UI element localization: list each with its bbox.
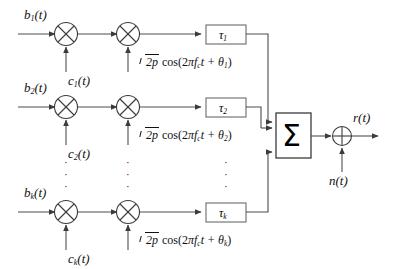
label-b2: b2(t) xyxy=(24,81,47,96)
ellipsis-column-3: ··· xyxy=(224,156,228,192)
label-c2: c2(t) xyxy=(68,147,90,162)
label-tau-2: τ2 xyxy=(219,101,227,116)
label-rt: r(t) xyxy=(353,111,370,124)
label-c1: c1(t) xyxy=(68,74,90,89)
label-carrier-2: 2p cos(2πfct + θ2) xyxy=(140,129,232,143)
label-ck: ck(t) xyxy=(68,252,90,267)
label-b1: b1(t) xyxy=(24,8,47,23)
bus-k-to-sum xyxy=(246,152,268,212)
bus-2-to-sum xyxy=(246,107,261,128)
ellipsis-column-2: ··· xyxy=(126,156,130,192)
label-nt: n(t) xyxy=(329,174,348,187)
block-diagram-canvas: b1(t) c1(t) 2p cos(2πfct + θ1) τ1 b2(t) … xyxy=(0,0,396,269)
label-carrier-k: 2p cos(2πfct + θk) xyxy=(140,234,231,248)
label-tau-k: τk xyxy=(219,206,227,221)
label-carrier-1: 2p cos(2πfct + θ1) xyxy=(140,56,232,70)
label-bk: bk(t) xyxy=(24,186,46,201)
ellipsis-column-1: ··· xyxy=(64,156,68,192)
label-tau-1: τ1 xyxy=(219,28,227,43)
summation-symbol: Σ xyxy=(282,118,301,153)
bus-1-to-sum xyxy=(246,34,268,122)
